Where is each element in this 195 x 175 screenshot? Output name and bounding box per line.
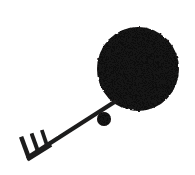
key-silhouette-artwork xyxy=(0,0,195,175)
key-bow xyxy=(97,27,179,111)
image-canvas: Key Silhouette old-fashioned skeleton ke… xyxy=(0,0,195,175)
accent-dot xyxy=(97,112,111,126)
